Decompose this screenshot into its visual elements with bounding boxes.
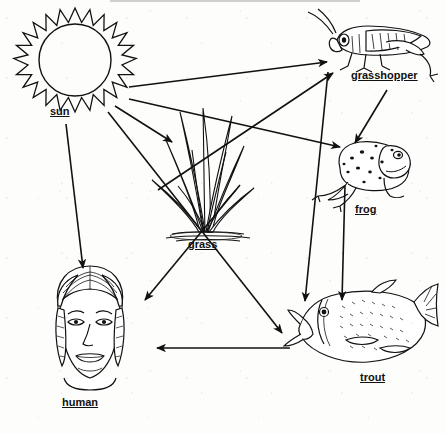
label-frog: frog bbox=[355, 203, 376, 215]
food-web-diagram: sun grass grasshopper frog trout human bbox=[0, 0, 445, 434]
edge-sun-grasshopper bbox=[129, 62, 327, 87]
diagram-canvas bbox=[0, 0, 445, 434]
sun-icon bbox=[0, 0, 136, 112]
label-grass: grass bbox=[188, 238, 217, 250]
human-icon bbox=[56, 266, 124, 390]
edge-frog-trout bbox=[342, 185, 345, 300]
grass-icon bbox=[152, 108, 254, 241]
edge-grass-trout bbox=[108, 112, 282, 333]
label-sun: sun bbox=[50, 105, 70, 117]
edge-sun-grass bbox=[115, 106, 172, 142]
frog-icon bbox=[312, 142, 410, 212]
edge-sun-human bbox=[66, 124, 83, 268]
label-human: human bbox=[62, 396, 98, 408]
edge-grasshopper-frog bbox=[355, 90, 387, 143]
edge-grasshopper-trout bbox=[305, 72, 328, 301]
trout-icon bbox=[284, 280, 438, 362]
label-grasshopper: grasshopper bbox=[351, 69, 418, 81]
label-trout: trout bbox=[360, 371, 385, 383]
